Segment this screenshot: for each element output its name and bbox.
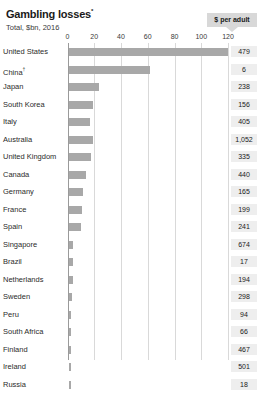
country-label: Russia xyxy=(3,376,26,393)
x-tick-label: 80 xyxy=(171,32,179,41)
per-adult-value: 6 xyxy=(231,64,257,75)
bar xyxy=(69,66,151,74)
country-label: Japan xyxy=(3,78,23,96)
table-row: France199 xyxy=(0,201,259,219)
per-adult-value: 194 xyxy=(231,274,257,285)
bar xyxy=(69,276,73,284)
country-label: Spain xyxy=(3,218,22,236)
table-row: United States479 xyxy=(0,43,259,61)
per-adult-value: 18 xyxy=(231,379,257,390)
table-row: Russia18 xyxy=(0,376,259,393)
table-row: United Kingdom335 xyxy=(0,148,259,166)
bar xyxy=(69,258,73,266)
x-tick-label: 0 xyxy=(66,32,70,41)
table-row: Japan238 xyxy=(0,78,259,96)
table-row: Ireland501 xyxy=(0,358,259,376)
country-label: Germany xyxy=(3,183,34,201)
bar xyxy=(69,223,81,231)
country-label: Italy xyxy=(3,113,17,131)
per-adult-value: 467 xyxy=(231,344,257,355)
bar xyxy=(69,381,71,389)
bar xyxy=(69,328,72,336)
table-row: Brazil17 xyxy=(0,253,259,271)
per-adult-value: 238 xyxy=(231,81,257,92)
country-label: Finland xyxy=(3,341,28,359)
table-row: Canada440 xyxy=(0,166,259,184)
bar xyxy=(69,363,71,371)
per-adult-value: 405 xyxy=(231,116,257,127)
bar xyxy=(69,346,72,354)
per-adult-value: 479 xyxy=(231,46,257,57)
table-row: South Africa66 xyxy=(0,323,259,341)
table-row: Netherlands194 xyxy=(0,271,259,289)
bar xyxy=(69,206,82,214)
country-label: United Kingdom xyxy=(3,148,56,166)
country-label: Singapore xyxy=(3,236,37,254)
table-row: Finland467 xyxy=(0,341,259,359)
table-row: Italy405 xyxy=(0,113,259,131)
country-label: South Africa xyxy=(3,323,43,341)
x-tick-label: 20 xyxy=(90,32,98,41)
per-adult-value: 241 xyxy=(231,221,257,232)
per-adult-value: 335 xyxy=(231,151,257,162)
x-tick-label: 60 xyxy=(144,32,152,41)
x-tick-label: 100 xyxy=(195,32,207,41)
bar xyxy=(69,293,72,301)
country-label: South Korea xyxy=(3,96,45,114)
bar xyxy=(69,83,100,91)
country-label: Peru xyxy=(3,306,19,324)
country-label: Canada xyxy=(3,166,29,184)
plot-area: 020406080100120 United States479China†6J… xyxy=(0,32,259,360)
per-adult-value: 501 xyxy=(231,361,257,372)
country-label: Sweden xyxy=(3,288,30,306)
table-row: South Korea156 xyxy=(0,96,259,114)
title-text: Gambling losses xyxy=(6,8,91,20)
per-adult-value: 66 xyxy=(231,326,257,337)
country-label: Australia xyxy=(3,131,32,149)
table-row: China†6 xyxy=(0,61,259,79)
per-adult-value: 440 xyxy=(231,169,257,180)
per-adult-value: 165 xyxy=(231,186,257,197)
country-label: Brazil xyxy=(3,253,22,271)
table-row: Germany165 xyxy=(0,183,259,201)
bar xyxy=(69,136,93,144)
country-footnote-marker: † xyxy=(23,66,26,72)
bar xyxy=(69,241,73,249)
country-label: Ireland xyxy=(3,358,26,376)
per-adult-value: 674 xyxy=(231,239,257,250)
per-adult-value: 156 xyxy=(231,99,257,110)
per-adult-value: 199 xyxy=(231,204,257,215)
bar xyxy=(69,118,90,126)
title-footnote-marker: * xyxy=(91,8,93,14)
x-tick-label: 120 xyxy=(222,32,234,41)
per-adult-value: 298 xyxy=(231,291,257,302)
country-label: China† xyxy=(3,61,25,79)
table-row: Australia1,052 xyxy=(0,131,259,149)
x-tick-label: 40 xyxy=(117,32,125,41)
table-row: Spain241 xyxy=(0,218,259,236)
table-row: Sweden298 xyxy=(0,288,259,306)
country-label: France xyxy=(3,201,26,219)
bar xyxy=(69,188,84,196)
per-adult-badge-label: $ per adult xyxy=(207,13,257,27)
country-label: Netherlands xyxy=(3,271,43,289)
bar xyxy=(69,153,92,161)
per-adult-value: 17 xyxy=(231,256,257,267)
per-adult-badge: $ per adult xyxy=(207,13,257,32)
table-row: Peru94 xyxy=(0,306,259,324)
per-adult-value: 94 xyxy=(231,309,257,320)
table-row: Singapore674 xyxy=(0,236,259,254)
bar-rows: United States479China†6Japan238South Kor… xyxy=(0,43,259,393)
bar xyxy=(69,171,86,179)
bar xyxy=(69,48,228,56)
per-adult-value: 1,052 xyxy=(231,134,257,145)
country-label: United States xyxy=(3,43,48,61)
bar xyxy=(69,101,93,109)
bar xyxy=(69,311,72,319)
